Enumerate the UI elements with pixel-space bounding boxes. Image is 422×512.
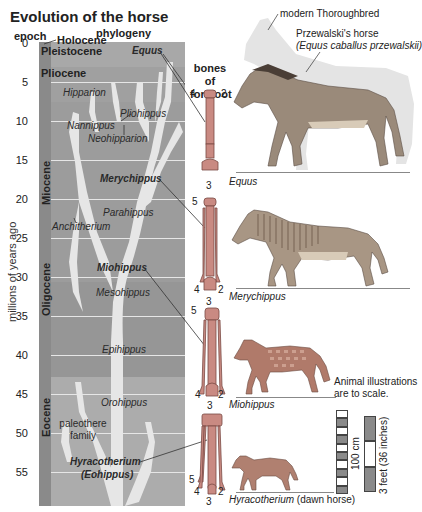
scale-bar-cm — [336, 410, 348, 494]
caption-hyracotherium: Hyracotherium (dawn horse) — [229, 494, 355, 505]
ground-merychippus — [236, 288, 410, 289]
horse-hyracotherium — [230, 448, 310, 494]
scale-label-feet: 3 feet (36 inches) — [378, 417, 389, 494]
scale-label-cm: 100 cm — [350, 437, 361, 470]
caption-dawn-horse: (dawn horse) — [294, 494, 355, 505]
caption-hyracotherium-name: Hyracotherium — [229, 494, 294, 505]
caption-merychippus: Merychippus — [229, 291, 286, 302]
caption-miohippus: Miohippus — [229, 399, 275, 410]
scale-note-line-1: Animal illustrations — [334, 376, 417, 387]
ground-equus — [236, 172, 410, 173]
horse-merychippus — [228, 192, 408, 292]
ground-miohippus — [236, 397, 336, 398]
horse-miohippus — [230, 330, 350, 400]
scale-bar-feet — [364, 416, 376, 492]
scale-note-line-2: are to scale. — [334, 388, 388, 399]
ground-hyracotherium — [236, 492, 334, 493]
caption-equus: Equus — [229, 176, 257, 187]
horse-equus — [228, 46, 408, 174]
